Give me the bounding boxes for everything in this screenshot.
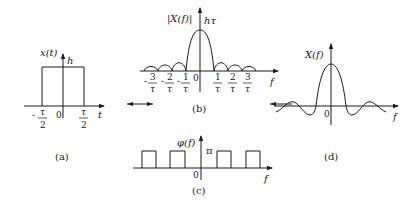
phase-pulse <box>170 151 185 168</box>
transform-arrow-left <box>127 102 153 106</box>
t-axis-label: t <box>98 109 103 120</box>
side-lobe <box>144 67 158 72</box>
y-label-abs-X-f: |X(f)| <box>167 13 192 25</box>
svg-text:τ: τ <box>167 84 173 94</box>
diagram-canvas: x(t) h t 0 - τ 2 τ 2 (a) <box>0 0 418 210</box>
tick-tau-over-2: τ 2 <box>79 107 88 130</box>
tick-2-over-tau: 2 τ <box>228 72 237 94</box>
side-lobe <box>172 63 186 71</box>
svg-text:3: 3 <box>245 72 251 82</box>
caption-b: (b) <box>192 103 206 114</box>
y-label-X-f: X(f) <box>304 49 324 60</box>
phase-pulse <box>217 151 231 168</box>
svg-text:2: 2 <box>40 120 46 130</box>
svg-text:τ: τ <box>245 84 251 94</box>
f-axis-label: f <box>269 76 276 87</box>
y-label-x-t: x(t) <box>40 47 58 58</box>
tick-3-over-tau: 3 τ <box>243 72 252 94</box>
panel-c-phase-spectrum: φ(f) π f 0 (c) <box>133 136 272 196</box>
svg-text:-: - <box>32 110 35 120</box>
side-lobe <box>158 65 172 71</box>
svg-text:-: - <box>161 76 164 86</box>
panel-a-time-domain-rect: x(t) h t 0 - τ 2 τ 2 (a) <box>24 47 104 162</box>
f-axis-label: f <box>263 173 270 184</box>
panel-d-real-spectrum: X(f) f 0 (d) <box>274 44 399 162</box>
y-label-phi-f: φ(f) <box>177 137 196 148</box>
side-lobe <box>242 67 256 72</box>
svg-text:1: 1 <box>183 72 189 82</box>
phase-pulse <box>246 151 260 168</box>
origin-label: 0 <box>193 73 199 83</box>
svg-text:τ: τ <box>230 84 236 94</box>
pi-level-label: π <box>206 145 213 156</box>
svg-text:1: 1 <box>215 72 221 82</box>
svg-text:τ: τ <box>81 107 87 117</box>
svg-text:-: - <box>177 76 180 86</box>
amplitude-h-label: h <box>67 55 73 66</box>
origin-label: 0 <box>56 110 62 120</box>
svg-text:-: - <box>144 76 147 86</box>
origin-label: 0 <box>193 170 199 180</box>
svg-text:τ: τ <box>215 84 221 94</box>
tick-minus-1-over-tau: - 1 τ <box>177 72 190 94</box>
side-lobe <box>214 63 228 71</box>
svg-text:2: 2 <box>81 120 87 130</box>
side-lobe <box>228 65 242 71</box>
svg-text:2: 2 <box>167 72 173 82</box>
panel-b-amplitude-spectrum: |X(f)| hτ f 0 - 3 τ - 2 τ - 1 τ 1 τ <box>140 8 278 114</box>
caption-a: (a) <box>55 151 69 162</box>
svg-text:τ: τ <box>40 107 46 117</box>
tick-minus-3-over-tau: - 3 τ <box>144 72 157 94</box>
caption-d: (d) <box>324 151 338 162</box>
svg-text:2: 2 <box>230 72 236 82</box>
phase-pulse <box>142 151 156 168</box>
tick-1-over-tau: 1 τ <box>213 72 222 94</box>
svg-text:τ: τ <box>150 84 156 94</box>
caption-c: (c) <box>192 185 206 196</box>
svg-text:3: 3 <box>150 72 156 82</box>
origin-label: 0 <box>324 109 330 119</box>
tick-minus-2-over-tau: - 2 τ <box>161 72 174 94</box>
peak-h-tau-label: hτ <box>204 15 216 26</box>
f-axis-label: f <box>392 111 399 122</box>
svg-text:τ: τ <box>183 84 189 94</box>
tick-minus-tau-over-2: - τ 2 <box>32 107 47 130</box>
